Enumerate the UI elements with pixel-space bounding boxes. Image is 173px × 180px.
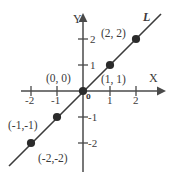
- line-label-L: L: [143, 11, 150, 23]
- data-point-marker: [27, 139, 35, 147]
- point-label-minus2-minus2: (-2,-2): [38, 153, 68, 165]
- x-axis-label: X: [149, 72, 158, 84]
- x-tick-label-minus2: -2: [25, 95, 34, 106]
- point-label-minus1-minus1: (-1,-1): [8, 120, 38, 132]
- coordinate-plane-figure: Y X o L -2 -1 1 2 2 1 -1 -2 (-2,-2) (-1,…: [0, 0, 173, 180]
- y-tick-label-2: 2: [90, 34, 96, 45]
- graph-canvas: [0, 0, 173, 180]
- data-point-marker: [132, 35, 140, 43]
- data-point-marker: [53, 113, 61, 121]
- y-tick-label-1: 1: [90, 60, 96, 71]
- x-tick-label-minus1: -1: [51, 95, 60, 106]
- y-tick-label-minus2: -2: [88, 138, 97, 149]
- point-label-0-0: (0, 0): [46, 73, 71, 85]
- y-tick-label-minus1: -1: [88, 112, 97, 123]
- y-axis-label: Y: [73, 13, 82, 25]
- x-axis-arrowhead: [157, 87, 166, 96]
- x-tick-label-1: 1: [107, 95, 113, 106]
- point-label-1-1: (1, 1): [101, 74, 126, 86]
- point-label-2-2: (2, 2): [101, 28, 126, 40]
- data-point-marker: [106, 61, 114, 69]
- x-tick-label-2: 2: [133, 95, 139, 106]
- origin-label: o: [86, 92, 91, 102]
